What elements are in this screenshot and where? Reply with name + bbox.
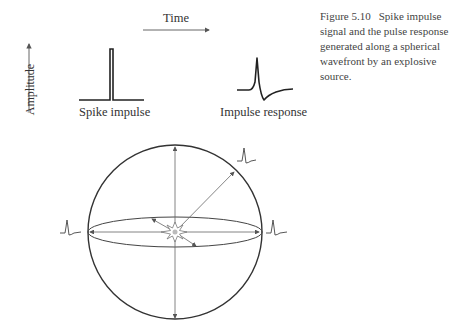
impulse-response-label: Impulse response xyxy=(220,105,307,120)
wavelet-upper-right-icon xyxy=(237,148,256,163)
explosion-icon xyxy=(161,222,187,242)
figure-caption: Figure 5.10Spike impulse signal and the … xyxy=(320,9,452,84)
caption-number: Figure 5.10 xyxy=(320,10,371,22)
amplitude-label: Amplitude xyxy=(23,55,38,125)
wavelet-left-icon xyxy=(60,220,81,235)
time-label: Time xyxy=(163,11,189,26)
spike-impulse-label: Spike impulse xyxy=(79,105,150,120)
spike-impulse-signal xyxy=(79,49,144,100)
impulse-response-signal xyxy=(237,58,293,100)
wavelet-right-icon xyxy=(266,220,287,235)
